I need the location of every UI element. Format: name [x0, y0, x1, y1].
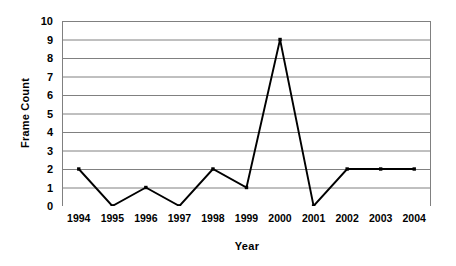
x-tick-label: 2002	[324, 212, 370, 224]
y-tick-label: 2	[23, 164, 53, 175]
data-series-line	[79, 40, 414, 207]
data-point-marker	[312, 204, 315, 206]
y-axis-title-label: Frame Count	[19, 78, 31, 148]
x-tick-label: 1999	[224, 212, 270, 224]
data-point-marker	[278, 38, 281, 41]
x-tick-label: 1996	[123, 212, 169, 224]
x-tick-label: 2003	[358, 212, 404, 224]
data-point-marker	[245, 186, 248, 189]
y-tick-label: 9	[23, 35, 53, 46]
x-tick-label: 1995	[89, 212, 135, 224]
x-tick-label: 1997	[156, 212, 202, 224]
y-tick-label: 8	[23, 53, 53, 64]
y-axis-tick-labels: 012345678910	[0, 0, 62, 226]
y-tick-label: 1	[23, 183, 53, 194]
x-tick-label: 2001	[291, 212, 337, 224]
y-tick-label: 6	[23, 90, 53, 101]
gridlines-group	[62, 22, 431, 207]
data-point-marker	[413, 167, 416, 170]
y-tick-label: 4	[23, 127, 53, 138]
x-axis-title: Year	[62, 240, 432, 252]
y-tick-label: 7	[23, 72, 53, 83]
x-axis-tick-labels: 1994199519961997199819992000200120022003…	[62, 212, 431, 232]
y-tick-label: 3	[23, 146, 53, 157]
data-points-group	[77, 38, 416, 206]
data-point-marker	[77, 167, 80, 170]
plot-area	[62, 21, 431, 206]
x-tick-label: 1998	[190, 212, 236, 224]
x-tick-label: 2004	[391, 212, 437, 224]
y-tick-label: 10	[23, 16, 53, 27]
y-tick-label: 5	[23, 109, 53, 120]
y-axis-title: Frame Count	[14, 0, 36, 226]
plot-svg	[62, 21, 431, 206]
line-chart: Frame Count 012345678910 199419951996199…	[0, 0, 456, 266]
y-tick-label: 0	[23, 201, 53, 212]
data-point-marker	[178, 204, 181, 206]
data-point-marker	[144, 186, 147, 189]
data-point-marker	[345, 167, 348, 170]
data-point-marker	[379, 167, 382, 170]
data-point-marker	[111, 204, 114, 206]
x-tick-label: 1994	[56, 212, 102, 224]
x-tick-label: 2000	[257, 212, 303, 224]
data-point-marker	[211, 167, 214, 170]
